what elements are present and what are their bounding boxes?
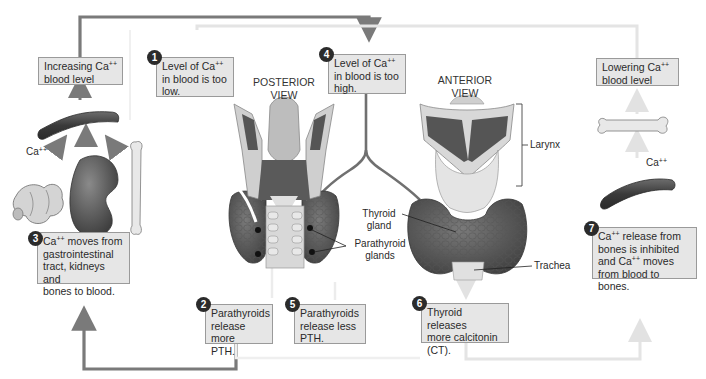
step-1-badge: 1 (147, 50, 162, 65)
parathyroid-gland-icon (255, 227, 261, 233)
thyroid-gland-label: Thyroid gland (354, 208, 404, 232)
parathyroid-glands-label: Parathyroid glands (345, 238, 415, 262)
increasing-calcium-box: Increasing Ca++ blood level (38, 57, 123, 85)
anterior-view-title: ANTERIORVIEW (425, 74, 505, 99)
step-1-box: Level of Ca++ in blood is too low. (156, 57, 234, 97)
step-7-box: Ca++ release from bones is inhibited and… (592, 227, 697, 279)
anterior-view-illustration (402, 95, 532, 280)
step-7-badge: 7 (584, 221, 599, 236)
step-6-box: Thyroid releases more calcitonin (CT). (421, 303, 509, 343)
kidney-icon (70, 156, 118, 237)
calcium-ion-label-left: Ca++ (26, 146, 47, 158)
lowering-calcium-box: Lowering Ca++ blood level (596, 58, 679, 86)
step-5-badge: 5 (285, 297, 300, 312)
bone-icon (131, 141, 142, 234)
blood-vessel-icon (38, 112, 119, 140)
step-4-badge: 4 (319, 47, 334, 62)
posterior-view-title: POSTERIORVIEW (244, 76, 324, 101)
step-3-badge: 3 (28, 231, 43, 246)
step-4-box: Level of Ca++ in blood is too high. (328, 54, 406, 94)
larynx-label: Larynx (530, 139, 560, 151)
calcium-ion-label-right: Ca++ (646, 157, 667, 169)
posterior-view-illustration (229, 97, 346, 268)
step-6-badge: 6 (412, 296, 427, 311)
step-3-box: Ca++ moves from gastrointestinal tract, … (37, 232, 130, 284)
step-2-box: Parathyroids release more PTH. (205, 304, 273, 344)
step-2-badge: 2 (196, 297, 211, 312)
left-organs-illustration (13, 112, 142, 237)
blood-vessel-icon (601, 179, 675, 209)
bone-icon (598, 117, 668, 133)
step-5-box: Parathyroids release less PTH. (294, 304, 366, 344)
parathyroid-gland-icon (255, 251, 261, 257)
trachea-label: Trachea (534, 260, 570, 272)
intestine-icon (13, 184, 63, 223)
